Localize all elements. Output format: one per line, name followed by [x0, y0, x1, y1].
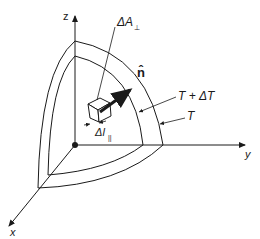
area-leader-line	[97, 27, 115, 100]
axes	[9, 16, 245, 226]
z-axis-label: z	[63, 10, 69, 22]
inner-surface-leader	[160, 118, 185, 124]
origin-dot	[72, 142, 78, 148]
length-dimension	[84, 121, 106, 125]
volume-element-cube	[88, 98, 111, 122]
area-label: ΔA	[116, 15, 133, 29]
length-label: Δl	[94, 126, 105, 138]
heat-flux-diagram: z y x ΔA ⊥ n̂ T + ΔT T Δl ||	[0, 0, 260, 239]
x-axis-label: x	[9, 226, 16, 238]
area-subscript: ⊥	[134, 24, 140, 31]
outer-surface-leader	[139, 97, 176, 112]
length-subscript: ||	[108, 134, 112, 142]
outer-surface-label: T + ΔT	[178, 89, 216, 103]
normal-label: n̂	[137, 65, 145, 80]
inner-surface-label: T	[187, 109, 196, 123]
y-axis-label: y	[244, 148, 252, 160]
